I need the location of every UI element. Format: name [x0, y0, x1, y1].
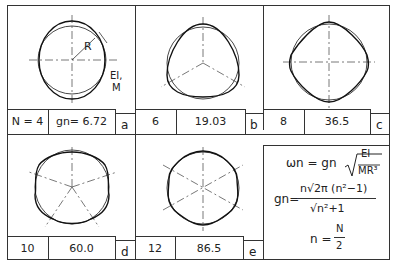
stiffness-label: EI, [110, 70, 122, 81]
panel-c-letter: c [376, 118, 383, 132]
panel-d-g: 60.0 [48, 243, 115, 254]
row-divider [7, 236, 115, 237]
row-divider [243, 240, 263, 241]
mass-label: M [112, 82, 121, 93]
row-divider [115, 113, 135, 114]
g-lhs: gn= [274, 192, 299, 206]
row-divider [135, 236, 243, 237]
panel-b-letter: b [250, 118, 258, 132]
radius-label: R [84, 40, 92, 53]
panel-c-g: 36.5 [304, 116, 370, 127]
g-den: √n²+1 [310, 202, 345, 215]
mode-shape-b [135, 5, 263, 109]
cell-divider [115, 109, 116, 134]
row-divider [370, 113, 390, 114]
fraction-bar [334, 237, 345, 238]
row-divider [135, 109, 245, 110]
panel-c-n: 8 [263, 116, 304, 127]
mode-shape-d [7, 135, 135, 236]
g-num: n√2π (n²−1) [300, 182, 367, 195]
omega-den: MR³ [358, 165, 378, 176]
mode-shape-e [135, 135, 263, 236]
panel-a-g: gn= 6.72 [48, 116, 115, 127]
panel-d-letter: d [121, 245, 129, 259]
fraction-bar [298, 198, 376, 199]
n-den: 2 [336, 240, 342, 251]
panel-b-g: 19.03 [176, 116, 245, 127]
panel-e-n: 12 [135, 243, 175, 254]
n-lhs: n = [310, 232, 331, 246]
n-num: N [336, 223, 343, 234]
row-divider [115, 240, 135, 241]
cell-divider [243, 236, 244, 260]
cell-divider [245, 109, 246, 134]
mode-shape-a [7, 5, 135, 109]
panel-e-g: 86.5 [175, 243, 243, 254]
omega-num: EI [361, 148, 370, 159]
panel-a-n: N = 4 [7, 116, 48, 127]
formula-panel: ωn = gn EI MR³ gn= n√2π (n²−1) √n²+1 n =… [264, 146, 390, 260]
panel-a-letter: a [121, 118, 128, 132]
panel-b-n: 6 [135, 116, 176, 127]
omega-formula: ωn = gn [286, 156, 337, 170]
cell-divider [115, 236, 116, 260]
cell-divider [370, 109, 371, 134]
panel-e-letter: e [249, 245, 256, 259]
row-divider [7, 109, 115, 110]
panel-d-n: 10 [7, 243, 48, 254]
row-divider [263, 109, 370, 110]
mode-shape-c [263, 5, 390, 109]
row-divider [245, 113, 263, 114]
omega-lhs: ωn = gn [286, 156, 337, 170]
